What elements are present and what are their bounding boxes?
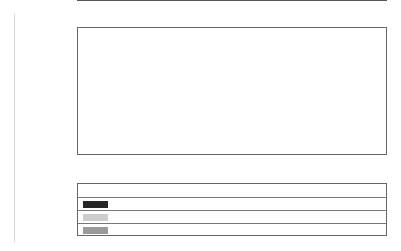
table-row-model-y	[78, 210, 386, 223]
table-row-model-x	[78, 197, 386, 210]
table-row-model-z	[78, 223, 386, 236]
zero-line	[77, 0, 387, 1]
legend-swatch-model-z	[83, 227, 108, 234]
plot-area	[77, 27, 387, 155]
table-row-actual	[78, 184, 386, 197]
legend-swatch-model-x	[83, 201, 108, 208]
data-table	[77, 183, 387, 236]
legend-swatch-model-y	[83, 214, 108, 221]
left-divider	[14, 14, 15, 242]
